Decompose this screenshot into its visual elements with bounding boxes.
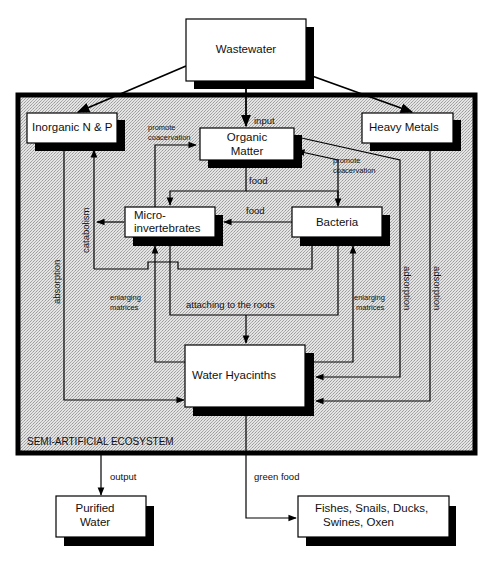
label-enlarging-left-1: enlarging	[110, 293, 141, 302]
node-heavy-metals: Heavy Metals	[362, 113, 461, 151]
label-catabolism: catabolism	[80, 208, 91, 253]
label-promote-right-1: promote	[333, 156, 361, 165]
svg-text:Heavy Metals: Heavy Metals	[369, 121, 439, 133]
svg-text:Fishes, Snails, Ducks,: Fishes, Snails, Ducks,	[315, 502, 428, 514]
svg-text:Water Hyacinths: Water Hyacinths	[192, 369, 276, 381]
label-food-mid: food	[246, 205, 265, 216]
label-input: input	[254, 115, 275, 126]
node-bacteria: Bacteria	[292, 207, 390, 246]
svg-text:Micro-: Micro-	[134, 209, 166, 221]
ecosystem-label: SEMI-ARTIFICIAL ECOSYSTEM	[27, 436, 174, 447]
label-enlarging-right-2: matrices	[356, 303, 385, 312]
node-purified-water: Purified Water	[56, 496, 154, 546]
label-adsorption-2: adsorption	[432, 266, 443, 310]
svg-text:Matter: Matter	[231, 145, 264, 157]
node-micro-invertebrates: Micro- invertebrates	[125, 207, 223, 246]
ecosystem-diagram: SEMI-ARTIFICIAL ECOSYSTEM	[0, 0, 491, 562]
label-promote-left-2: coacervation	[148, 133, 191, 142]
node-inorganic-np: Inorganic N & P	[27, 113, 125, 151]
node-wastewater: Wastewater	[186, 19, 314, 89]
svg-text:Purified: Purified	[76, 502, 115, 514]
svg-text:Wastewater: Wastewater	[216, 43, 276, 55]
label-promote-right-2: coacervation	[333, 166, 376, 175]
label-adsorption-1: adsorption	[402, 266, 413, 310]
svg-text:Inorganic N & P: Inorganic N & P	[32, 121, 113, 133]
node-consumers: Fishes, Snails, Ducks, Swines, Oxen	[298, 496, 456, 546]
node-water-hyacinths: Water Hyacinths	[185, 345, 314, 416]
label-green-food: green food	[254, 471, 299, 482]
label-absorption: absorption	[51, 260, 62, 304]
label-enlarging-left-2: matrices	[110, 303, 139, 312]
label-enlarging-right-1: enlarging	[354, 293, 385, 302]
label-attaching: attaching to the roots	[186, 299, 275, 310]
svg-text:Organic: Organic	[227, 131, 268, 143]
node-organic-matter: Organic Matter	[200, 128, 302, 168]
svg-text:Water: Water	[80, 516, 110, 528]
svg-text:Bacteria: Bacteria	[316, 216, 359, 228]
label-output: output	[110, 471, 137, 482]
label-food-top: food	[249, 175, 268, 186]
label-promote-left-1: promote	[148, 123, 176, 132]
svg-text:Swines, Oxen: Swines, Oxen	[323, 516, 394, 528]
svg-text:invertebrates: invertebrates	[134, 222, 201, 234]
